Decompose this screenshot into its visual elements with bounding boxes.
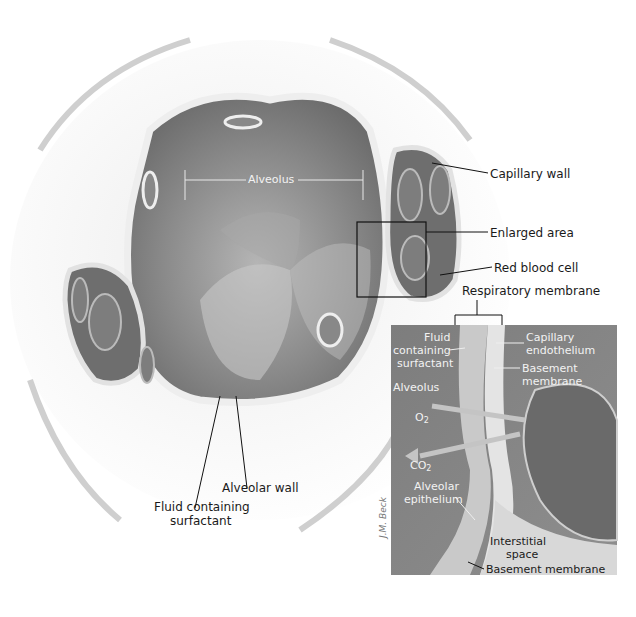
capillary-endothelium-line2: endothelium [526, 344, 595, 357]
capillary-endothelium-line1: Capillary [526, 331, 574, 344]
alveolar-epithelium-line1: Alveolar [414, 480, 459, 493]
inset-fluid-line2: containing [393, 344, 451, 357]
co2-label: CO2 [410, 459, 431, 475]
respiratory-membrane-label: Respiratory membrane [462, 284, 600, 298]
red-blood-cell-label: Red blood cell [494, 261, 578, 275]
inset-alveolus-label: Alveolus [393, 381, 439, 394]
basement-membrane-top-line1: Basement [522, 362, 578, 375]
inset-fluid-line1: Fluid [424, 331, 450, 344]
basement-membrane-top-line2: membrane [522, 375, 582, 388]
basement-membrane-bottom-label: Basement membrane [486, 563, 605, 577]
inset-fluid-line3: surfactant [397, 357, 453, 370]
alveolus-label: Alveolus [248, 173, 294, 186]
alveolar-wall-label: Alveolar wall [222, 481, 299, 495]
fluid-surfactant-label-line2: surfactant [170, 514, 231, 528]
enlarged-area-label: Enlarged area [490, 226, 574, 240]
alveolus-diagram-artwork [0, 0, 636, 617]
alveolar-epithelium-line2: epithelium [404, 493, 463, 506]
artist-signature: J.M. Beck [376, 497, 390, 538]
interstitial-line2: space [506, 548, 538, 562]
capillary-wall-label: Capillary wall [490, 167, 570, 181]
interstitial-line1: Interstitial [490, 535, 546, 549]
fluid-surfactant-label-line1: Fluid containing [154, 500, 250, 514]
o2-label: O2 [415, 411, 429, 427]
